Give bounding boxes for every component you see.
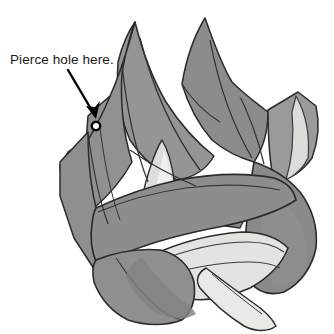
origami-figure: Pierce hole here. (0, 0, 334, 334)
pointer-arrow (68, 70, 100, 119)
pierce-hole-marker (92, 122, 100, 130)
origami-illustration (0, 0, 334, 334)
pierce-hole-annotation: Pierce hole here. (10, 52, 114, 68)
